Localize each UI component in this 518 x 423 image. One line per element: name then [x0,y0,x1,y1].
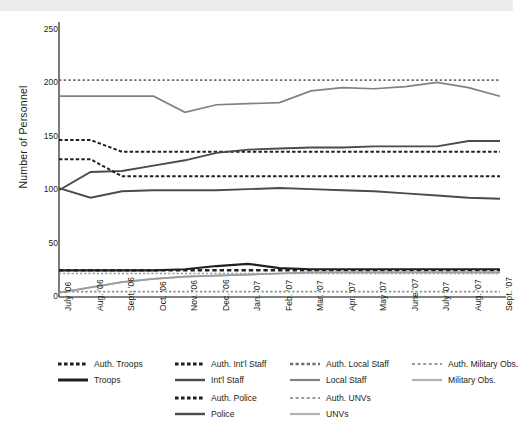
x-tick-10: May '07 [378,281,388,311]
legend-swatch-solid-light [412,376,442,384]
legend-swatch-dashed-heavy-dark [175,360,205,368]
legend-item-police[interactable]: Police [175,409,234,419]
legend-swatch-solid-mid [290,376,320,384]
legend-label: Police [211,409,234,419]
legend-item-auth-troops[interactable]: Auth. Troops [58,359,143,369]
chart-legend: Auth. TroopsAuth. Int'l StaffAuth. Local… [0,355,513,423]
x-tick-0: July '06 [63,282,73,311]
legend-item-auth-int-l-staff[interactable]: Auth. Int'l Staff [175,359,266,369]
x-tick-9: Apr. '07 [347,282,357,311]
legend-item-auth-local-staff[interactable]: Auth. Local Staff [290,359,389,369]
legend-label: Auth. Military Obs. [448,359,518,369]
x-tick-8: Mar. '07 [315,280,325,311]
x-tick-14: Sept. '07 [504,277,514,311]
page-top-band [0,0,513,11]
personnel-line-chart: Number of Personnel 050100150200250 July… [0,11,513,423]
legend-label: Troops [94,375,120,385]
x-tick-5: Dec. '06 [221,279,231,311]
chart-svg [0,11,513,311]
legend-swatch-dashed-light [412,360,442,368]
x-tick-12: July '07 [441,282,451,311]
x-tick-4: Nov. '06 [189,280,199,311]
legend-label: Int'l Staff [211,375,244,385]
legend-item-auth-unvs[interactable]: Auth. UNVs [290,393,371,403]
legend-swatch-dashed-light [290,394,320,402]
legend-swatch-dashed-heavy-dark [58,360,88,368]
legend-label: Auth. Police [211,393,257,403]
legend-swatch-dashed-heavy-dark [175,394,205,402]
legend-item-unvs[interactable]: UNVs [290,409,348,419]
legend-label: Military Obs. [448,375,496,385]
legend-label: Auth. UNVs [326,393,371,403]
legend-item-int-l-staff[interactable]: Int'l Staff [175,375,244,385]
x-tick-13: Aug. '07 [473,279,483,311]
legend-swatch-solid-light [290,410,320,418]
legend-item-auth-police[interactable]: Auth. Police [175,393,257,403]
x-tick-1: Aug. '06 [95,279,105,311]
x-tick-7: Feb. '07 [284,280,294,311]
legend-swatch-solid-dark [175,376,205,384]
x-tick-11: June '07 [410,278,420,311]
legend-item-military-obs[interactable]: Military Obs. [412,375,496,385]
legend-label: UNVs [326,409,348,419]
series-line-int-l-staff [59,141,500,190]
legend-item-troops[interactable]: Troops [58,375,120,385]
legend-label: Auth. Local Staff [326,359,389,369]
plot-area: Number of Personnel 050100150200250 [0,11,513,311]
legend-swatch-dashed-mid [290,360,320,368]
series-line-police [59,188,500,199]
x-tick-2: Sept. '06 [126,277,136,311]
legend-label: Local Staff [326,375,366,385]
legend-item-auth-military-obs[interactable]: Auth. Military Obs. [412,359,518,369]
legend-item-local-staff[interactable]: Local Staff [290,375,366,385]
x-tick-3: Oct. '06 [158,281,168,311]
series-line-auth-police [59,159,500,176]
x-tick-6: Jan. '07 [252,281,262,311]
legend-label: Auth. Int'l Staff [211,359,266,369]
series-line-local-staff [59,82,500,112]
legend-swatch-solid-dark [175,410,205,418]
legend-label: Auth. Troops [94,359,143,369]
legend-swatch-solid-heavy-dark [58,376,88,384]
